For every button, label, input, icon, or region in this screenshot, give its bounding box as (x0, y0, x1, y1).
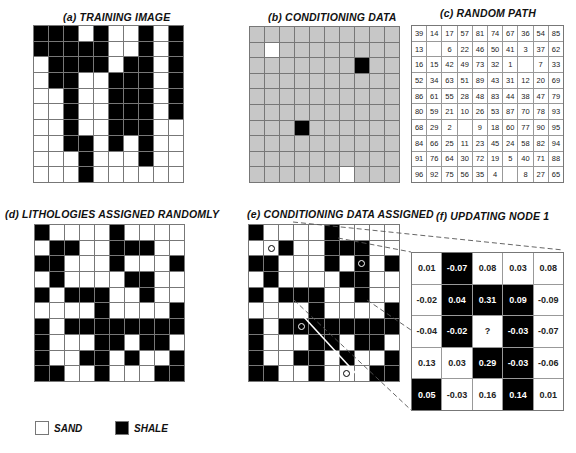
sand-cell (340, 167, 354, 182)
path-order-cell: 38 (518, 89, 532, 104)
shale-cell (325, 319, 339, 334)
sand-cell (370, 288, 384, 303)
unknown-cell (310, 43, 324, 58)
shale-cell (370, 335, 384, 350)
shale-cell (170, 351, 184, 366)
sand-cell (325, 272, 339, 287)
unknown-cell (385, 89, 399, 104)
path-order-cell: 41 (503, 42, 517, 57)
sand-cell (340, 256, 354, 271)
shale-cell (249, 366, 263, 381)
sand-cell (155, 272, 169, 287)
path-order-cell: 66 (427, 136, 441, 151)
unknown-cell (295, 74, 309, 89)
path-order-cell (503, 167, 517, 182)
shale-cell (385, 366, 399, 381)
path-order-cell: 27 (534, 167, 548, 182)
sand-cell (94, 104, 108, 119)
path-order-cell: 8 (518, 167, 532, 182)
sand-cell (34, 136, 48, 151)
sand-cell (125, 256, 139, 271)
shale-cell (124, 73, 138, 88)
shale-cell (110, 241, 124, 256)
path-order-cell: 52 (412, 73, 426, 88)
sand-cell (279, 272, 293, 287)
unknown-cell (310, 27, 324, 42)
sand-cell (169, 152, 183, 167)
sand-cell (79, 89, 93, 104)
path-order-cell: 61 (427, 89, 441, 104)
shale-cell (340, 241, 354, 256)
sand-cell (110, 351, 124, 366)
unknown-cell (325, 27, 339, 42)
kriging-weight-cell: 0.01 (534, 379, 563, 410)
path-order-cell: 13 (412, 42, 426, 57)
unknown-cell (310, 136, 324, 151)
path-order-cell: 25 (442, 136, 456, 151)
unknown-cell (280, 167, 294, 182)
unknown-cell (250, 58, 264, 73)
unknown-cell (355, 152, 369, 167)
sand-cell (64, 167, 78, 182)
unknown-cell (385, 58, 399, 73)
shale-cell (64, 26, 78, 41)
sand-cell (140, 256, 154, 271)
shale-cell (64, 57, 78, 72)
unknown-cell (340, 136, 354, 151)
shale-cell (140, 288, 154, 303)
sand-cell (385, 335, 399, 350)
shale-cell (139, 57, 153, 72)
shale-cell (35, 288, 49, 303)
unknown-cell (370, 27, 384, 42)
unknown-cell (265, 152, 279, 167)
path-order-cell: 67 (503, 26, 517, 41)
sand-cell (80, 272, 94, 287)
kriging-weight-cell: -0.03 (503, 348, 532, 379)
path-order-cell: 58 (518, 136, 532, 151)
sand-cell (94, 73, 108, 88)
shale-cell (139, 89, 153, 104)
unknown-cell (295, 136, 309, 151)
path-order-cell: 3 (518, 42, 532, 57)
shale-cell (169, 73, 183, 88)
shale-cell (139, 73, 153, 88)
kriging-weight-cell: -0.02 (412, 285, 441, 316)
sand-cell (140, 351, 154, 366)
kriging-weight-cell: 0.16 (473, 379, 502, 410)
shale-cell (249, 319, 263, 334)
path-order-cell: 5 (503, 152, 517, 167)
sand-cell (155, 303, 169, 318)
sand-cell (370, 225, 384, 240)
unknown-cell (250, 167, 264, 182)
sand-cell (370, 256, 384, 271)
sand-cell (355, 225, 369, 240)
shale-cell (109, 73, 123, 88)
shale-cell (80, 288, 94, 303)
unknown-cell (280, 105, 294, 120)
unknown-cell (355, 74, 369, 89)
sand-cell (370, 272, 384, 287)
sand-cell (279, 256, 293, 271)
unknown-cell (295, 27, 309, 42)
sand-cell (355, 303, 369, 318)
sand-cell (294, 225, 308, 240)
sand-cell (170, 288, 184, 303)
sand-cell (50, 335, 64, 350)
sand-cell (50, 351, 64, 366)
path-order-cell: 53 (488, 104, 502, 119)
sand-cell (154, 57, 168, 72)
kriging-weight-cell: 0.29 (473, 348, 502, 379)
shale-cell (264, 366, 278, 381)
sand-cell (49, 120, 63, 135)
unknown-cell (295, 152, 309, 167)
shale-cell (279, 319, 293, 334)
path-order-cell: 93 (549, 104, 563, 119)
shale-cell (169, 57, 183, 72)
sand-cell (309, 241, 323, 256)
shale-cell (95, 288, 109, 303)
path-order-cell: 91 (412, 152, 426, 167)
sand-cell (109, 57, 123, 72)
sand-cell (294, 272, 308, 287)
sand-cell (340, 366, 354, 381)
shale-cell (35, 366, 49, 381)
